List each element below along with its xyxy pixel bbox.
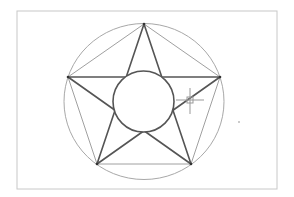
inner-circle[interactable] xyxy=(113,71,174,132)
drawing-canvas[interactable] xyxy=(0,0,294,197)
stray-point xyxy=(238,121,240,123)
